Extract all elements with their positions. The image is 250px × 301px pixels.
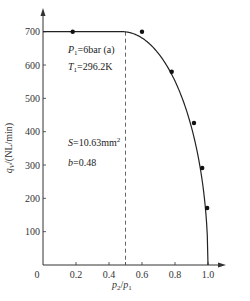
y-tick-label: 100: [25, 226, 40, 237]
y-tick-label: 400: [25, 126, 40, 137]
annotation-b: b=0.48: [68, 157, 96, 168]
annotation-t1-value: =296.2K: [77, 61, 113, 72]
annotation-s-sup: 2: [117, 136, 121, 144]
annotation-t1: T1=296.2K: [68, 61, 113, 74]
data-point: [140, 29, 144, 33]
y-label-unit: /(NL/min): [3, 123, 15, 164]
x-axis-arrow-icon: [218, 263, 226, 268]
y-axis-label: qV/(NL/min): [3, 123, 16, 173]
y-axis-arrow-icon: [41, 8, 46, 16]
x-axis-label: p2/p1: [111, 279, 132, 292]
x-tick-label: 0.6: [136, 269, 149, 280]
data-point: [205, 206, 209, 210]
x-label-sub1: 1: [128, 284, 132, 292]
data-point: [192, 121, 196, 125]
y-tick-label: 500: [25, 93, 40, 104]
annotation-p1-symbol: P: [67, 44, 74, 55]
x-tick-label: 1.0: [202, 269, 215, 280]
y-tick-label: 600: [25, 60, 40, 71]
annotation-s-value: =10.63mm: [73, 137, 117, 148]
y-tick-label: 300: [25, 160, 40, 171]
flow-characteristic-chart: 00.20.40.60.81.0 100200300400500600700 P…: [0, 0, 250, 301]
y-tick-label: 700: [25, 26, 40, 37]
annotation-b-value: =0.48: [73, 157, 96, 168]
annotation-p1-value: =6bar (a): [78, 44, 115, 56]
y-tick-label: 200: [25, 193, 40, 204]
measured-points: [71, 29, 210, 210]
x-tick-label: 0.8: [169, 269, 182, 280]
annotation-p1: P1=6bar (a): [67, 44, 115, 57]
data-point: [170, 69, 174, 73]
x-tick-label: 0.2: [70, 269, 83, 280]
x-tick-label: 0: [35, 269, 40, 280]
annotation-s: S=10.63mm2: [68, 136, 121, 148]
data-point: [200, 166, 204, 170]
data-point: [71, 29, 75, 33]
